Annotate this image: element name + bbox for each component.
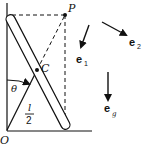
point-c-dot — [35, 68, 39, 72]
label-eg-sub: g — [112, 110, 117, 118]
label-e1-sub: 1 — [84, 60, 88, 67]
label-2: 2 — [26, 115, 32, 126]
label-theta: θ — [11, 83, 17, 94]
rod — [4, 13, 71, 131]
label-o: O — [0, 134, 9, 146]
diagram-canvas: O P C θ l 2 e 1 e 2 e g — [0, 0, 148, 146]
label-l: l — [28, 102, 31, 113]
label-e1: e — [76, 53, 82, 65]
label-c: C — [41, 62, 50, 75]
label-eg: e — [104, 102, 110, 114]
label-p: P — [67, 2, 76, 15]
line-oc — [7, 70, 37, 130]
label-e2-sub: 2 — [137, 43, 141, 50]
label-e2: e — [129, 36, 135, 48]
e2-arrow — [102, 22, 126, 35]
point-p-dot — [63, 13, 67, 17]
e1-arrow — [81, 25, 89, 47]
